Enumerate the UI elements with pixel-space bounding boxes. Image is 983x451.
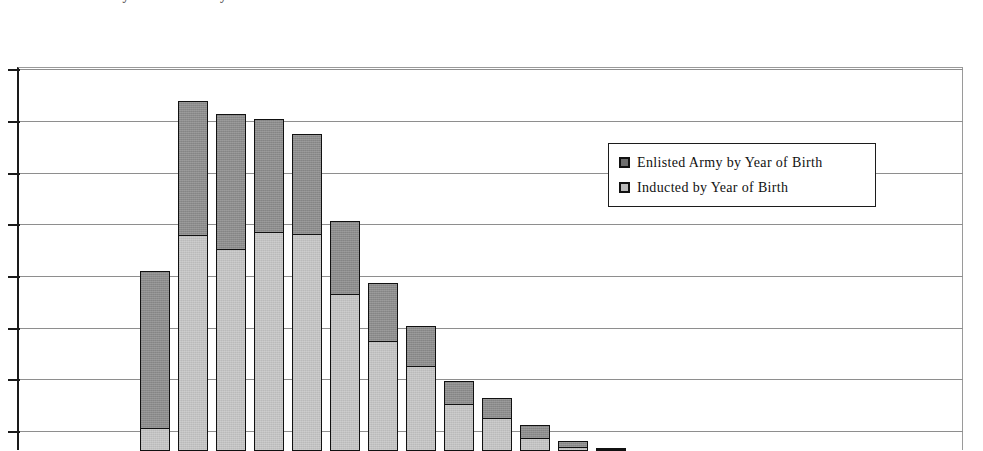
bar-segment-inducted <box>330 294 360 451</box>
bar-segment-enlisted <box>596 448 626 450</box>
legend-item-inducted: Inducted by Year of Birth <box>619 175 875 200</box>
chart-title-text: Enlisted Army and Inducted by Year of Bi… <box>46 0 305 4</box>
bar-segment-inducted <box>444 404 474 451</box>
bar-segment-enlisted <box>558 441 588 448</box>
bar-segment-inducted <box>368 341 398 451</box>
legend-item-enlisted: Enlisted Army by Year of Birth <box>619 150 875 175</box>
bar-segment-enlisted <box>482 398 512 419</box>
bar-segment-enlisted <box>254 119 284 233</box>
bar-column <box>178 101 208 451</box>
bar-segment-enlisted <box>406 326 436 367</box>
bar-column <box>482 398 512 451</box>
bar-segment-inducted <box>178 235 208 451</box>
bar-column <box>558 441 588 451</box>
bar-segment-inducted <box>406 366 436 451</box>
bar-segment-inducted <box>482 418 512 451</box>
legend-swatch-inducted-icon <box>619 182 630 193</box>
bar-segment-enlisted <box>368 283 398 342</box>
bar-segment-inducted <box>254 232 284 451</box>
plot-area <box>17 67 963 450</box>
legend-label-enlisted: Enlisted Army by Year of Birth <box>637 155 823 170</box>
bar-segment-enlisted <box>292 134 322 235</box>
bar-segment-enlisted <box>330 221 360 295</box>
bar-segment-enlisted <box>216 114 246 250</box>
bar-segment-enlisted <box>178 101 208 236</box>
chart-legend: Enlisted Army by Year of Birth Inducted … <box>608 143 876 207</box>
bars-layer <box>19 68 965 451</box>
bar-segment-inducted <box>140 428 170 451</box>
bar-segment-enlisted <box>520 425 550 439</box>
bar-segment-inducted <box>520 438 550 451</box>
chart-title-cropped: Enlisted Army and Inducted by Year of Bi… <box>0 0 983 12</box>
bar-column <box>292 134 322 451</box>
bar-segment-enlisted <box>444 381 474 405</box>
bar-column <box>140 271 170 451</box>
bar-segment-inducted <box>216 249 246 451</box>
bar-segment-inducted <box>292 234 322 451</box>
bar-column <box>330 221 360 451</box>
legend-label-inducted: Inducted by Year of Birth <box>637 180 788 195</box>
bar-column <box>368 283 398 451</box>
bar-column <box>254 119 284 451</box>
legend-swatch-enlisted-icon <box>619 157 630 168</box>
bar-column <box>520 425 550 451</box>
bar-segment-enlisted <box>140 271 170 429</box>
bar-column <box>406 326 436 451</box>
bar-column <box>216 114 246 451</box>
bar-column <box>444 381 474 451</box>
